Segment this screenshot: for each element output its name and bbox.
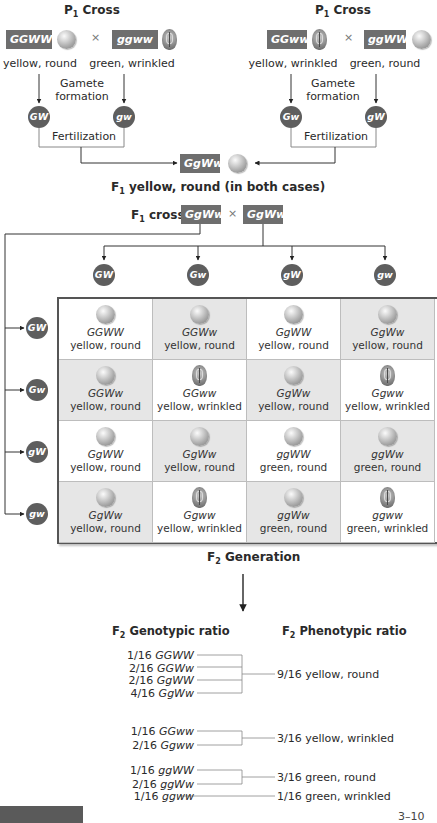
punnett-cell: GgWWyellow, round <box>247 299 341 360</box>
gamete-circle: gW <box>365 106 387 128</box>
round-pea-icon <box>284 305 303 324</box>
ratio-fraction: 1/16 <box>130 764 155 777</box>
cross-symbol: × <box>344 31 353 44</box>
ratio-genotype: GgWw <box>159 687 194 700</box>
cell-genotype: ggWw <box>247 509 340 521</box>
ratio-genotype: GGWw <box>157 662 194 675</box>
phenotype-ratio-entry: 1/16 green, wrinkled <box>277 790 391 803</box>
cell-genotype: GGWW <box>59 326 152 338</box>
genotype-ratio-entry: 1/16 GGww <box>104 725 194 738</box>
cell-genotype: GgWw <box>59 509 152 521</box>
cell-phenotype: green, wrinkled <box>341 522 434 534</box>
genotype-ratio-entry: 4/16 GgWw <box>104 687 194 700</box>
header-prefix: F <box>282 624 290 638</box>
cell-phenotype: green, round <box>341 461 434 473</box>
punnett-cell: GGWwyellow, round <box>59 360 153 421</box>
ratio-fraction: 1/16 <box>134 790 159 803</box>
cell-genotype: GgWw <box>341 326 434 338</box>
genotype-ratio-entry: 1/16 ggWW <box>104 764 194 777</box>
phenotype-ratio-entry: 3/16 green, round <box>277 771 376 784</box>
round-pea-icon <box>378 427 397 446</box>
caption-suffix: Generation <box>221 550 301 564</box>
cross-symbol: × <box>228 207 237 220</box>
gamete-formation-label-line1: Gamete <box>306 77 360 90</box>
ratio-fraction: 1/16 <box>131 725 156 738</box>
round-pea-icon <box>228 154 247 173</box>
caption-prefix: F <box>207 550 215 564</box>
gamete-circle: Gw <box>280 106 302 128</box>
cell-phenotype: yellow, round <box>59 522 152 534</box>
gamete-circle: GW <box>28 106 50 128</box>
page-number: 3–10 <box>398 810 425 823</box>
title-prefix: P <box>64 3 73 17</box>
row-gamete: gw <box>26 503 48 525</box>
header-suffix: Genotypic ratio <box>125 624 229 638</box>
ratio-fraction: 2/16 <box>129 662 154 675</box>
punnett-cell: Ggwwyellow, wrinkled <box>341 360 435 421</box>
punnett-cell: GGWwyellow, round <box>153 299 247 360</box>
punnett-cell: ggWwgreen, round <box>247 482 341 543</box>
genotype-badge: ggww <box>112 30 158 49</box>
wrinkled-pea-icon <box>380 365 395 386</box>
cell-genotype: GgWW <box>247 326 340 338</box>
cell-phenotype: yellow, round <box>341 339 434 351</box>
column-gamete: gW <box>281 264 303 286</box>
round-pea-icon <box>57 30 76 49</box>
punnett-cell: GGWWyellow, round <box>59 299 153 360</box>
punnett-cell: GgWwyellow, round <box>59 482 153 543</box>
ratio-fraction: 2/16 <box>129 674 154 687</box>
fertilization-connector-left <box>81 147 177 163</box>
cell-phenotype: yellow, round <box>153 339 246 351</box>
f1-cross-parent-b-badge: GgWw <box>243 205 283 224</box>
ratio-fraction: 1/16 <box>127 649 152 662</box>
f2-generation-caption: F2 Generation <box>207 550 300 566</box>
round-pea-icon <box>96 366 115 385</box>
punnett-cell: ggWWgreen, round <box>247 421 341 482</box>
genotype-ratio-entry: 2/16 GgWW <box>104 674 194 687</box>
wrinkled-pea-icon <box>192 365 207 386</box>
round-pea-icon <box>96 488 115 507</box>
p1-cross-right-title: P1 Cross <box>315 3 371 19</box>
round-pea-icon <box>378 305 397 324</box>
phenotypic-ratio-header: F2 Phenotypic ratio <box>282 624 407 640</box>
punnett-cell: GgWWyellow, round <box>59 421 153 482</box>
round-pea-icon <box>284 366 303 385</box>
genotype-badge: GGww <box>267 30 307 49</box>
genotype-ratio-entry: 1/16 ggww <box>104 790 194 803</box>
label-prefix: F <box>131 208 139 222</box>
genotype-ratio-entry: 2/16 Ggww <box>104 739 194 752</box>
round-pea-icon <box>190 305 209 324</box>
ratio-genotype: GGww <box>159 725 194 738</box>
wrinkled-pea-icon <box>312 29 327 50</box>
fertilization-connector-right <box>255 147 335 163</box>
cell-genotype: GgWw <box>247 387 340 399</box>
round-pea-icon <box>284 488 303 507</box>
round-pea-icon <box>412 30 431 49</box>
genotype-badge: ggWW <box>364 30 406 49</box>
genotype-badge-ggww-parent: GGWW <box>6 30 52 49</box>
f1-label: F1 yellow, round (in both cases) <box>111 180 325 196</box>
wrinkled-pea-icon <box>162 29 177 50</box>
cell-phenotype: yellow, wrinkled <box>341 400 434 412</box>
genotype-ratio-entry: 2/16 GGWw <box>104 662 194 675</box>
ratio-genotype: ggWW <box>158 764 194 777</box>
label-suffix: cross <box>145 208 185 222</box>
cell-phenotype: yellow, round <box>59 461 152 473</box>
ratio-genotype: GgWW <box>157 674 194 687</box>
cell-genotype: GGWw <box>153 326 246 338</box>
column-gamete: GW <box>93 264 115 286</box>
f1-cross-label: F1 cross <box>131 208 185 224</box>
ratio-fraction: 2/16 <box>132 739 157 752</box>
round-pea-icon <box>190 427 209 446</box>
cell-genotype: ggWw <box>341 448 434 460</box>
title-prefix: P <box>315 3 324 17</box>
cell-genotype: GGWw <box>59 387 152 399</box>
gamete-formation-label-line2: formation <box>55 90 109 103</box>
phenotype-ratio-entry: 3/16 yellow, wrinkled <box>277 732 394 745</box>
punnett-cell: GgWwyellow, round <box>247 360 341 421</box>
punnett-cell: GGwwyellow, wrinkled <box>153 360 247 421</box>
cell-phenotype: yellow, round <box>59 400 152 412</box>
title-suffix: Cross <box>78 3 119 17</box>
punnett-cell: GgWwyellow, round <box>153 421 247 482</box>
page-footer-bar <box>0 806 83 823</box>
